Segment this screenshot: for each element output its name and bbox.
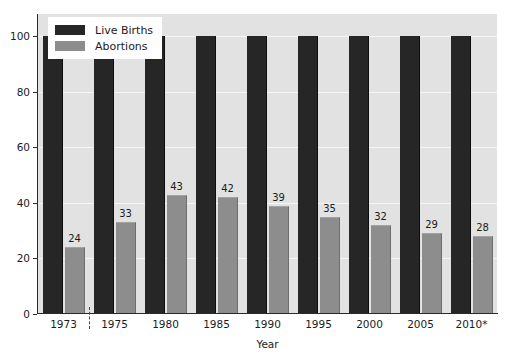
bar-value-label: 39 bbox=[272, 192, 285, 203]
bar-value-label: 29 bbox=[425, 219, 438, 230]
x-tick-label: 1995 bbox=[305, 318, 332, 330]
y-tick-label: 80 bbox=[0, 86, 30, 98]
bar-live-births bbox=[94, 36, 114, 314]
bar-abortions bbox=[218, 197, 238, 314]
bar-value-label: 43 bbox=[170, 181, 183, 192]
y-tick-label: 60 bbox=[0, 141, 30, 153]
bar-value-label: 42 bbox=[221, 183, 234, 194]
chart-title-fragment: . bbox=[0, 0, 508, 5]
x-tick-label: 1975 bbox=[101, 318, 128, 330]
bar-value-label: 24 bbox=[68, 233, 81, 244]
legend-swatch-abortions bbox=[55, 41, 85, 51]
x-tick-label: 2010* bbox=[456, 318, 488, 330]
y-tick-label: 0 bbox=[0, 308, 30, 320]
y-tick-label: 40 bbox=[0, 197, 30, 209]
y-tick-mark bbox=[33, 92, 37, 93]
x-tick-label: 2005 bbox=[407, 318, 434, 330]
x-tick-label: 2000 bbox=[356, 318, 383, 330]
bar-value-label: 28 bbox=[476, 222, 489, 233]
bar-abortions bbox=[269, 206, 289, 314]
bar-live-births bbox=[451, 36, 471, 314]
y-tick-mark bbox=[33, 36, 37, 37]
x-axis-line bbox=[37, 313, 498, 314]
x-tick-label: 1985 bbox=[203, 318, 230, 330]
bar-live-births bbox=[145, 36, 165, 314]
bar-live-births bbox=[298, 36, 318, 314]
chart-legend: Live Births Abortions bbox=[48, 17, 162, 59]
bar-value-label: 32 bbox=[374, 211, 387, 222]
y-tick-mark bbox=[33, 147, 37, 148]
x-tick-label: 1980 bbox=[152, 318, 179, 330]
x-tick-label: 1990 bbox=[254, 318, 281, 330]
x-tick-label: 1973 bbox=[50, 318, 77, 330]
bar-value-label: 35 bbox=[323, 203, 336, 214]
bar-live-births bbox=[247, 36, 267, 314]
bar-live-births bbox=[43, 36, 63, 314]
bar-abortions bbox=[473, 236, 493, 314]
bar-live-births bbox=[400, 36, 420, 314]
axis-break-marker bbox=[89, 307, 90, 329]
y-tick-mark bbox=[33, 203, 37, 204]
legend-swatch-live-births bbox=[55, 25, 85, 35]
bar-abortions bbox=[65, 247, 85, 314]
y-tick-label: 100 bbox=[0, 30, 30, 42]
bar-live-births bbox=[196, 36, 216, 314]
bar-live-births bbox=[349, 36, 369, 314]
bar-value-label: 33 bbox=[119, 208, 132, 219]
legend-label-live-births: Live Births bbox=[95, 24, 153, 37]
plot-area bbox=[38, 14, 497, 314]
bar-chart: . 02040608010024197333197543198042198539… bbox=[0, 0, 508, 363]
legend-item-abortions: Abortions bbox=[55, 38, 153, 54]
bar-abortions bbox=[320, 217, 340, 314]
bar-abortions bbox=[116, 222, 136, 314]
y-tick-mark bbox=[33, 258, 37, 259]
legend-item-live-births: Live Births bbox=[55, 22, 153, 38]
bar-abortions bbox=[167, 195, 187, 314]
x-axis-title: Year bbox=[256, 338, 278, 350]
y-axis-line bbox=[37, 14, 38, 314]
y-tick-label: 20 bbox=[0, 252, 30, 264]
bar-abortions bbox=[422, 233, 442, 314]
legend-label-abortions: Abortions bbox=[95, 40, 148, 53]
y-tick-mark bbox=[33, 314, 37, 315]
bar-abortions bbox=[371, 225, 391, 314]
